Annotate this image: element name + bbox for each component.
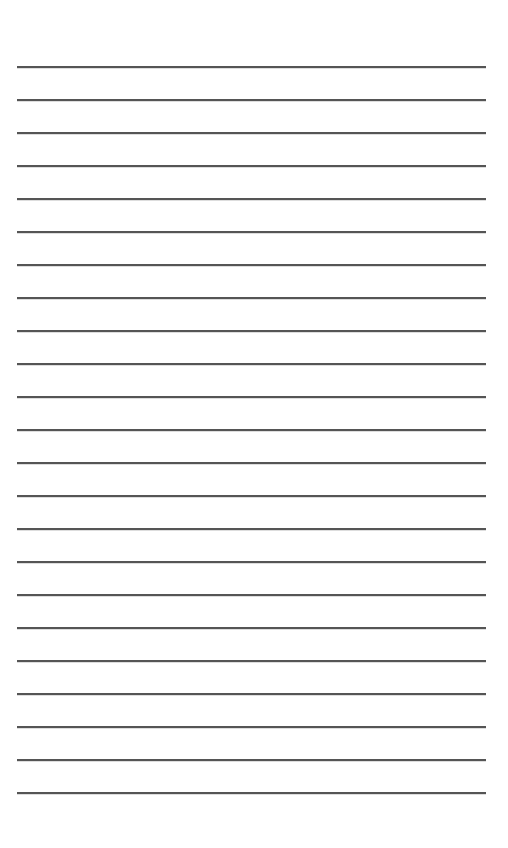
ruled-line (17, 528, 486, 530)
ruled-line (17, 462, 486, 464)
ruled-line (17, 429, 486, 431)
ruled-line (17, 330, 486, 332)
ruled-line (17, 66, 486, 68)
ruled-line (17, 231, 486, 233)
ruled-line (17, 792, 486, 794)
ruled-line (17, 198, 486, 200)
ruled-line (17, 99, 486, 101)
ruled-line (17, 627, 486, 629)
ruled-line (17, 165, 486, 167)
ruled-line (17, 759, 486, 761)
ruled-line (17, 495, 486, 497)
ruled-line (17, 363, 486, 365)
ruled-line (17, 726, 486, 728)
lined-paper-page (0, 0, 508, 848)
ruled-line (17, 561, 486, 563)
ruled-line (17, 660, 486, 662)
ruled-line (17, 132, 486, 134)
ruled-line (17, 297, 486, 299)
ruled-line (17, 264, 486, 266)
ruled-line (17, 594, 486, 596)
ruled-line (17, 693, 486, 695)
ruled-line (17, 396, 486, 398)
